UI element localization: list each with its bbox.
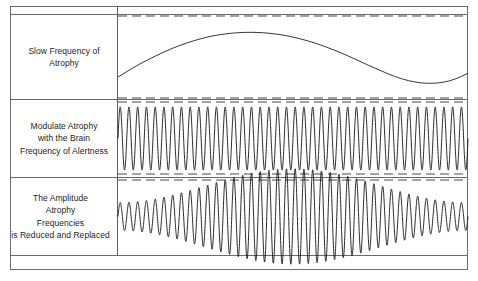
plot-amplitude-modulated bbox=[118, 178, 468, 255]
figure-root: Slow Frequency of Atrophy Modulate Atrop… bbox=[0, 0, 478, 281]
row-label-amplitude-reduced: The Amplitude Atrophy Frequencies is Red… bbox=[4, 178, 117, 255]
row-label-line: The Amplitude Atrophy Frequencies is Red… bbox=[11, 192, 110, 242]
row-label-line: Slow Frequency of Atrophy bbox=[28, 45, 99, 70]
slow-sine-curve bbox=[118, 32, 468, 83]
plot-slow-frequency bbox=[118, 15, 468, 99]
row-label-brain-frequency: Modulate Atrophy with the Brain Frequenc… bbox=[11, 100, 117, 177]
row-label-slow-frequency: Slow Frequency of Atrophy bbox=[11, 15, 117, 99]
carrier-wave-svg bbox=[118, 100, 468, 177]
carrier-wave-path bbox=[118, 107, 468, 170]
modulated-wave-svg bbox=[118, 178, 468, 255]
slow-frequency-wave-svg bbox=[118, 15, 468, 99]
plot-brain-frequency bbox=[118, 100, 468, 177]
modulated-wave-path bbox=[118, 169, 468, 264]
row-label-line: Modulate Atrophy with the Brain Frequenc… bbox=[20, 120, 108, 158]
